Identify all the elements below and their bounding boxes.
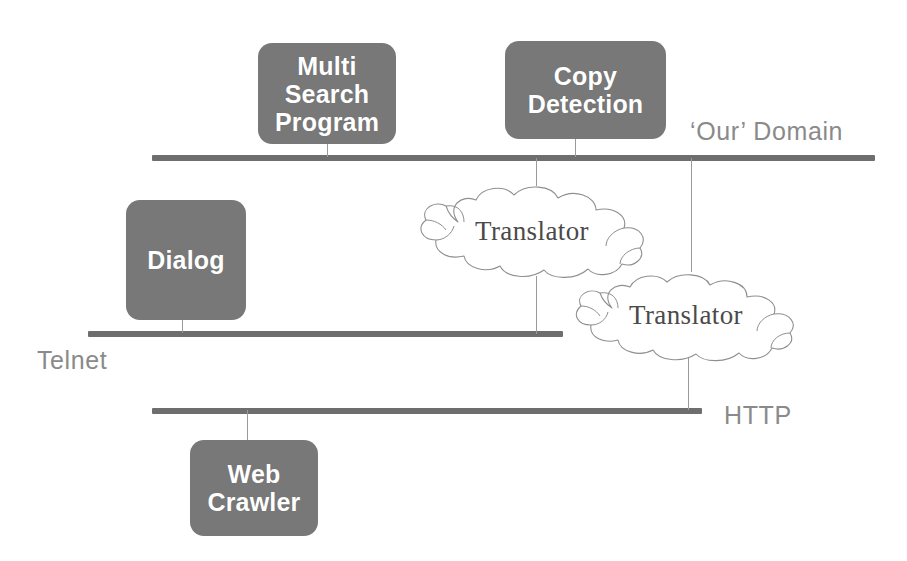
cloud-label-translator-upper: Translator — [406, 216, 658, 247]
node-multi-search-program[interactable]: Multi Search Program — [258, 43, 396, 144]
connector-http-to-web-crawler — [247, 410, 248, 442]
bus-bar-telnet — [88, 331, 563, 337]
cloud-label-translator-lower: Translator — [562, 300, 810, 331]
bus-bar-http — [152, 408, 702, 414]
bus-label-our-domain: ‘Our’ Domain — [690, 117, 843, 146]
node-dialog[interactable]: Dialog — [126, 200, 246, 320]
connector-dialog-to-telnet — [182, 318, 183, 333]
bus-label-telnet: Telnet — [37, 346, 107, 375]
connector-translator-upper-to-telnet — [536, 276, 537, 334]
connector-our-domain-to-translator-lower — [691, 158, 692, 272]
bus-label-http: HTTP — [724, 401, 792, 430]
architecture-diagram: ‘Our’ Domain Telnet HTTP Translator Tran… — [0, 0, 907, 561]
cloud-translator-upper: Translator — [406, 182, 658, 282]
connector-msp-to-our-domain — [327, 144, 328, 157]
bus-bar-our-domain — [152, 155, 875, 161]
connector-copy-detection-to-our-domain — [575, 139, 576, 157]
node-copy-detection[interactable]: Copy Detection — [505, 41, 666, 139]
cloud-translator-lower: Translator — [562, 270, 810, 365]
node-web-crawler[interactable]: Web Crawler — [190, 440, 318, 536]
